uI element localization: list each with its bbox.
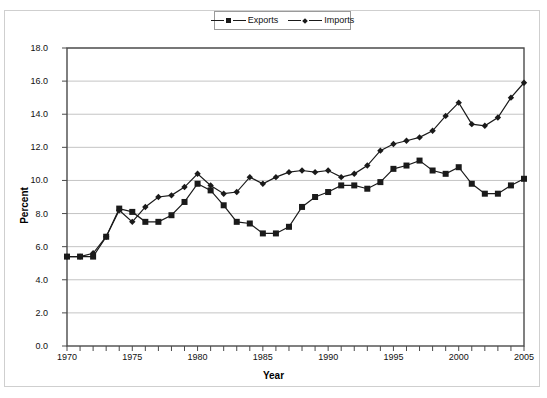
data-point-imports (338, 174, 344, 180)
data-point-imports (351, 171, 357, 177)
data-point-exports (443, 171, 449, 177)
data-point-imports (325, 167, 331, 173)
data-point-exports (260, 230, 266, 236)
data-point-exports (430, 168, 436, 174)
data-point-imports (403, 138, 409, 144)
series-line-imports (67, 83, 524, 257)
data-point-exports (155, 219, 161, 225)
data-point-exports (377, 179, 383, 185)
plot-border (67, 48, 524, 346)
data-point-imports (416, 134, 422, 140)
data-point-exports (182, 199, 188, 205)
data-point-exports (299, 204, 305, 210)
data-point-exports (129, 209, 135, 215)
data-point-exports (521, 176, 527, 182)
data-point-imports (469, 121, 475, 127)
data-point-exports (469, 181, 475, 187)
data-point-imports (482, 123, 488, 129)
data-point-imports (390, 141, 396, 147)
data-point-exports (364, 186, 370, 192)
series-line-exports (67, 161, 524, 257)
data-point-imports (220, 190, 226, 196)
data-point-exports (390, 166, 396, 172)
data-point-imports (168, 192, 174, 198)
data-point-exports (168, 212, 174, 218)
data-point-exports (312, 194, 318, 200)
data-point-exports (195, 181, 201, 187)
data-point-exports (234, 219, 240, 225)
chart-svg (0, 0, 547, 398)
chart-plot-area: Percent Year 0.02.04.06.08.010.012.014.0… (0, 0, 547, 398)
data-point-exports (482, 191, 488, 197)
data-point-exports (508, 182, 514, 188)
data-point-exports (221, 202, 227, 208)
data-point-imports (260, 181, 266, 187)
data-point-imports (299, 167, 305, 173)
data-point-exports (325, 189, 331, 195)
data-point-exports (286, 224, 292, 230)
data-point-exports (247, 220, 253, 226)
data-point-exports (403, 163, 409, 169)
data-point-exports (456, 164, 462, 170)
data-point-exports (351, 182, 357, 188)
data-point-exports (142, 219, 148, 225)
data-point-exports (495, 191, 501, 197)
data-point-exports (338, 182, 344, 188)
data-point-exports (417, 158, 423, 164)
data-point-exports (273, 230, 279, 236)
data-point-imports (273, 174, 279, 180)
data-point-imports (312, 169, 318, 175)
data-point-imports (286, 169, 292, 175)
data-point-imports (495, 114, 501, 120)
